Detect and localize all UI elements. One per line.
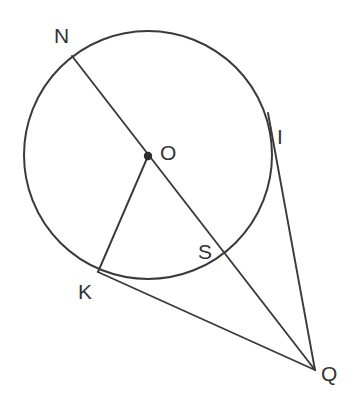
center-point-dot (144, 152, 152, 160)
geometry-diagram: N O I S K Q (0, 0, 361, 418)
geometry-canvas (0, 0, 361, 418)
segment-n-q (72, 56, 315, 370)
point-label-q: Q (321, 363, 337, 384)
point-label-s: S (198, 241, 212, 262)
segment-k-q (98, 272, 315, 370)
point-label-o: O (160, 142, 176, 163)
point-label-n: N (54, 25, 69, 46)
segment-o-k (98, 156, 148, 272)
point-label-k: K (78, 281, 92, 302)
segment-i-q (268, 113, 315, 370)
point-label-i: I (277, 126, 283, 147)
